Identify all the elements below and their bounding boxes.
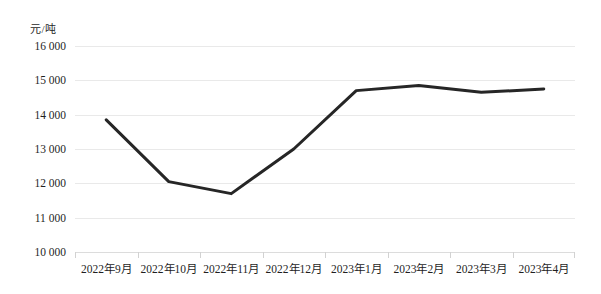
x-axis-tick — [574, 252, 575, 258]
x-axis-ticks — [75, 252, 575, 258]
x-axis-tick — [263, 252, 264, 258]
line-chart: 元/吨 10 00011 00012 00013 00014 00015 000… — [0, 0, 601, 294]
x-axis-tick — [138, 252, 139, 258]
y-axis-tick-label: 11 000 — [35, 212, 66, 224]
y-axis-tick-label: 16 000 — [34, 40, 66, 52]
x-axis-tick-label: 2023年1月 — [331, 259, 382, 279]
x-axis-tick-labels: 2022年9月2022年10月2022年11月2022年12月2023年1月20… — [75, 259, 575, 287]
x-axis-tick-label: 2023年2月 — [393, 259, 444, 279]
x-axis-tick-label: 2022年9月 — [81, 259, 132, 279]
series-polyline — [106, 85, 544, 193]
x-axis-tick-label: 2022年10月 — [141, 259, 198, 279]
x-axis-tick — [200, 252, 201, 258]
y-axis-tick-label: 15 000 — [34, 74, 66, 86]
plot-area — [75, 46, 575, 252]
y-axis-tick-label: 10 000 — [34, 246, 66, 258]
y-axis-tick-label: 14 000 — [34, 109, 66, 121]
x-axis-tick-label: 2023年4月 — [518, 259, 569, 279]
x-axis-tick — [388, 252, 389, 258]
x-axis-tick-label: 2022年11月 — [203, 259, 259, 279]
x-axis-tick — [325, 252, 326, 258]
series-line-price — [75, 46, 575, 252]
x-axis-tick-label: 2022年12月 — [266, 259, 323, 279]
y-axis-tick-label: 13 000 — [34, 143, 66, 155]
y-axis-tick-label: 12 000 — [34, 177, 66, 189]
x-axis-tick-label: 2023年3月 — [456, 259, 507, 279]
y-axis-tick-labels: 10 00011 00012 00013 00014 00015 00016 0… — [0, 0, 75, 294]
x-axis-tick — [75, 252, 76, 258]
x-axis-tick — [450, 252, 451, 258]
x-axis-tick — [513, 252, 514, 258]
